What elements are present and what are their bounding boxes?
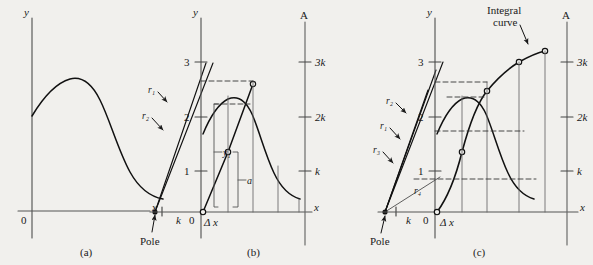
panel-c-ytick-label-1: 1: [418, 165, 424, 177]
panel-c-point-0: [434, 209, 439, 214]
panel-a-given-curve: [32, 78, 163, 199]
panel-b-y-axis-label: y: [192, 6, 198, 18]
panel-b-ytick-label-1: 1: [184, 165, 190, 177]
panel-b-caption: (b): [247, 246, 260, 259]
panel-c-ray-r3: [385, 90, 428, 212]
panel-c: [378, 18, 578, 245]
panel-c-dashed-projections: [414, 82, 536, 179]
integral-curve-annotation-line2: curve: [493, 16, 518, 28]
panel-b-brace-label-a: a: [247, 175, 252, 186]
panel-b-pole-label: Pole: [140, 235, 160, 247]
panel-a-x-axis-label: x: [151, 201, 157, 213]
panel-c-atick-label-3k: 3k: [576, 56, 589, 68]
panel-c-r2-pointer: [396, 103, 406, 113]
panel-c-x-axis-label: x: [579, 201, 585, 213]
figure-canvas: y x 0 (a) y x A 0 k Pole Δ x 1 2 3 k 2k …: [0, 0, 593, 265]
panel-c-origin-label: 0: [423, 214, 429, 226]
panel-c-y-axis-label: y: [426, 6, 432, 18]
panel-c-ray-r4: [385, 177, 440, 212]
panel-a: [18, 18, 163, 238]
panel-c-r1-pointer: [390, 128, 400, 139]
panel-b-ray-r1: [155, 63, 213, 212]
panel-b-brace-label-y1: y₁: [222, 148, 231, 158]
integral-curve-annotation-line1: Integral: [487, 4, 521, 16]
panel-c-delta-x-label: Δ x: [439, 216, 454, 228]
panel-c-ray-label-r4: r₄: [414, 186, 421, 196]
panel-b-brace-a: [233, 152, 246, 207]
panel-b-x-axis-label: x: [313, 201, 319, 213]
panel-a-origin-label: 0: [21, 214, 27, 226]
panel-b-pole-pointer: [152, 215, 155, 232]
panel-c-k-label: k: [406, 214, 412, 226]
panel-c-ray-label-r2: r₂: [386, 96, 394, 106]
panel-c-ytick-label-2: 2: [418, 111, 424, 123]
panel-a-y-axis-label: y: [23, 6, 29, 18]
panel-c-ytick-label-3: 3: [418, 56, 424, 68]
panel-b-ytick-label-3: 3: [184, 56, 190, 68]
integral-curve-pointer: [520, 25, 528, 44]
panel-b-A-axis-label: A: [300, 9, 308, 21]
panel-b-r2-pointer: [152, 118, 163, 130]
panel-c-atick-label-k: k: [577, 165, 583, 177]
panel-c-r3-pointer: [383, 152, 393, 163]
panel-c-pole-pointer: [381, 216, 385, 233]
panel-b-r1-pointer: [158, 92, 167, 102]
panel-c-station-lines: [462, 51, 545, 212]
panel-b-ray-r2: [155, 63, 206, 212]
panel-c-integral-curve: [437, 51, 545, 212]
panel-b-k-label: k: [176, 214, 182, 226]
graphical-integration-figure: y x 0 (a) y x A 0 k Pole Δ x 1 2 3 k 2k …: [0, 0, 593, 265]
panel-b-ytick-label-2: 2: [184, 111, 190, 123]
panel-c-caption: (c): [473, 246, 486, 259]
panel-b-atick-label-2k: 2k: [315, 111, 327, 123]
panel-b-delta-x-label: Δ x: [203, 216, 218, 228]
panel-b-origin-label: 0: [189, 214, 195, 226]
panel-b-brace-y1: [214, 104, 222, 207]
panel-c-pole-label: Pole: [370, 235, 390, 247]
panel-b: [150, 18, 312, 245]
panel-b-atick-label-k: k: [315, 165, 321, 177]
panel-b-point-0: [200, 209, 205, 214]
panel-c-ray-label-r3: r₃: [373, 145, 380, 155]
panel-b-dashed-projections: [201, 81, 253, 104]
panel-c-atick-label-2k: 2k: [577, 111, 589, 123]
panel-b-atick-label-3k: 3k: [314, 56, 327, 68]
panel-c-ray-label-r1: r₁: [380, 121, 387, 131]
panel-a-caption: (a): [80, 246, 93, 259]
panel-b-ray-label-r2: r₂: [142, 111, 150, 121]
panel-c-A-axis-label: A: [562, 9, 570, 21]
panel-b-ray-label-r1: r₁: [148, 85, 155, 95]
